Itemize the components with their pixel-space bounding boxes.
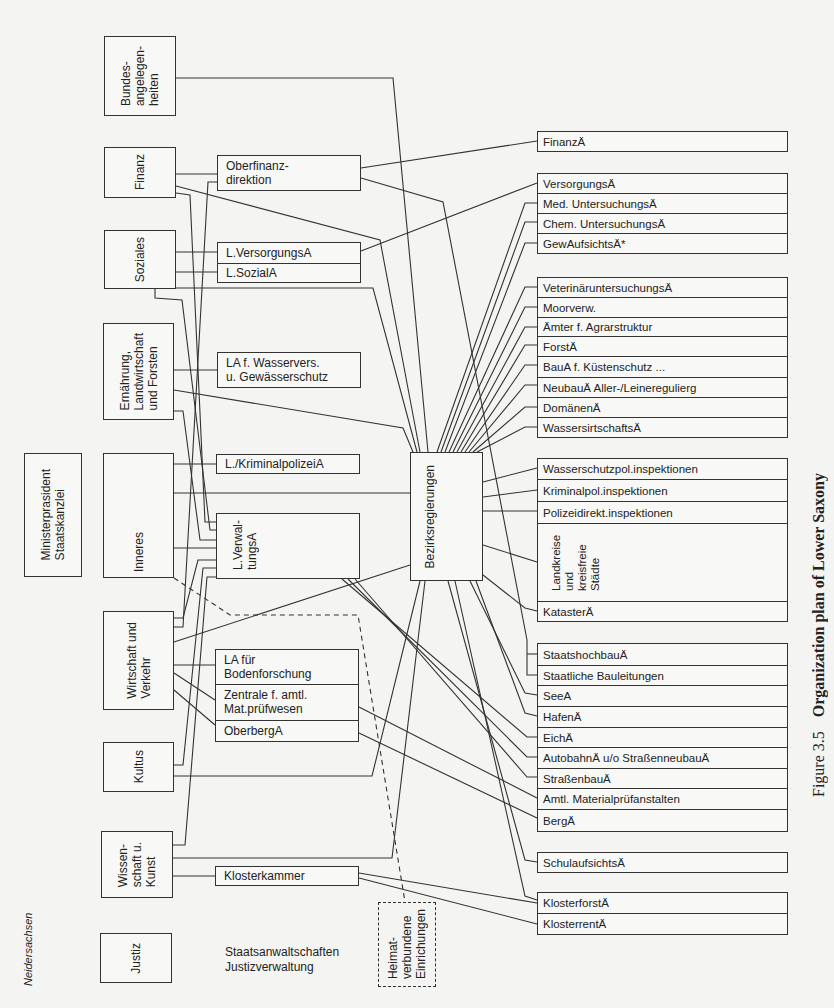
connection-line [174, 411, 216, 540]
agency-zentrale-matpruefwesen: Zentrale f. amtl. Mat.prüfwesen [215, 684, 359, 721]
local-office-box: DomänenÄ [537, 397, 788, 418]
agency-l-soziala: L.SozialA [217, 263, 361, 283]
connection-line [483, 468, 537, 482]
ministry-label: Kultus [132, 750, 146, 783]
local-office-box: NeubauÄ Aller-/Leineregulierg [537, 377, 788, 398]
local-office-box: KlosterrentÄ [537, 913, 788, 935]
connection-line [483, 490, 537, 497]
local-office-label: StraßenbauÄ [543, 773, 611, 785]
ministry-kultus: Kultus [103, 742, 174, 792]
local-office-label: KlosterrentÄ [543, 918, 606, 930]
local-office-label: Chem. UntersuchungsÄ [543, 218, 665, 230]
local-office-label: HafenÄ [543, 711, 581, 723]
bezirksregierungen: Bezirksregierungen [410, 452, 483, 581]
local-office-box: StraßenbauÄ [537, 768, 788, 789]
local-office-box: StaatshochbauÄ [537, 643, 788, 666]
ministry-label: Ministerprasident Staatskanzlei [39, 469, 67, 560]
local-office-label: Polizeidirekt.inspektionen [543, 507, 673, 519]
local-office-label: Staatliche Bauleitungen [543, 670, 664, 682]
local-office-label: Amtl. Materialprüfanstalten [543, 793, 680, 805]
connection-line [174, 568, 216, 765]
local-office-label: FinanzÄ [543, 136, 585, 148]
local-office-box: HafenÄ [537, 706, 788, 728]
local-office-box: WassersirtschaftsÄ [537, 417, 788, 438]
local-office-label: Med. UntersuchungsÄ [543, 198, 657, 210]
ministry-soziales: Soziales [104, 230, 176, 289]
ministerpraesident-staatskanzlei: Ministerprasident Staatskanzlei [24, 453, 82, 577]
connection-line [361, 183, 537, 251]
local-office-label: Kriminalpol.inspektionen [543, 485, 668, 497]
local-office-label: VersorgungsÄ [543, 178, 615, 190]
ministry-ernaehrung: Ernährung, Landwirtschaft und Forsten [103, 323, 174, 420]
ministry-justiz: Justiz [100, 933, 172, 983]
figure-title: Organization plan of Lower Saxony [810, 473, 827, 717]
local-office-box: Chem. UntersuchungsÄ [537, 213, 788, 234]
local-office-box: FinanzÄ [537, 131, 788, 152]
local-office-label: BergÄ [543, 815, 575, 827]
local-office-label: WassersirtschaftsÄ [543, 422, 641, 434]
local-office-box: Wasserschutzpol.inspektionen [537, 458, 788, 480]
agency-oberfinanzdirektion: Oberfinanz- direktion [217, 155, 361, 191]
connection-line [176, 186, 420, 452]
local-office-box: VeterinäruntersuchungsÄ [537, 277, 788, 298]
agency-la-bodenforschung: LA für Bodenforschung [215, 649, 359, 685]
bezirksregierungen-label: Bezirksregierungen [423, 465, 437, 568]
connection-line [174, 560, 216, 618]
ministry-label: Ernährung, Landwirtschaft und Forsten [118, 333, 160, 410]
agency-l-versorgungsa: L.VersorgungsA [217, 242, 361, 264]
ministry-label: Wissen- schaft u. Kunst [116, 842, 158, 887]
local-office-label: Ämter f. Agrarstruktur [543, 321, 652, 333]
connection-line [173, 577, 216, 845]
connection-line [359, 707, 537, 798]
state-label: Neidersachsen [22, 898, 34, 986]
agency-klosterkammer: Klosterkammer [215, 866, 359, 886]
local-office-box: KatasterÄ [537, 601, 788, 622]
local-office-label: StaatshochbauÄ [543, 649, 627, 661]
connection-line [361, 141, 537, 168]
connection-line [176, 193, 216, 522]
local-office-box: BergÄ [537, 809, 788, 832]
connection-line [174, 390, 413, 452]
local-office-box: SeeA [537, 685, 788, 707]
connection-line [361, 178, 537, 675]
local-office-label: EichÄ [543, 732, 573, 744]
organization-diagram: Bundes- angelegen- heiten Finanz Soziale… [0, 0, 834, 1008]
figure-caption: Figure 3.5Organization plan of Lower Sax… [810, 287, 828, 797]
ministry-wissenschaft: Wissen- schaft u. Kunst [101, 831, 173, 898]
agency-oberberga: OberbergA [215, 720, 359, 742]
agency-la-wasservers: LA f. Wasservers. u. Gewässerschutz [217, 352, 361, 388]
heimatverbundene-einrichungen: Heimat- verbundene Einrichungen [378, 902, 436, 987]
local-office-box: ForstÄ [537, 336, 788, 357]
local-office-box: KlosterforstÄ [537, 892, 788, 914]
local-office-label: AutobahnÄ u/o StraßenneubauÄ [543, 752, 709, 764]
local-office-label: ForstÄ [543, 341, 577, 353]
agency-l-kriminalpolizeia: L./KriminalpolizeiA [216, 454, 360, 474]
landkreise-label: Landkreise und kreisfreie Städte [550, 529, 602, 591]
justice-note: Staatsanwaltschaften Justizverwaltung [225, 945, 339, 975]
agency-label: L.Verwal- tungsA [231, 520, 259, 570]
local-office-box: VersorgungsÄ [537, 173, 788, 194]
connection-line [473, 407, 537, 452]
connection-line [355, 579, 537, 777]
ministry-finanz: Finanz [104, 147, 176, 198]
local-office-label: SeeA [543, 690, 571, 702]
local-office-box: Ämter f. Agrarstruktur [537, 317, 788, 337]
connection-line [476, 581, 537, 716]
connection-line [469, 385, 537, 452]
heimat-label: Heimat- verbundene Einrichungen [386, 909, 428, 979]
ministry-bundesangelegenheiten: Bundes- angelegen- heiten [104, 36, 176, 116]
local-office-label: BauA f. Küstenschutz ... [543, 361, 665, 373]
local-office-box: Med. UntersuchungsÄ [537, 193, 788, 214]
local-office-box: BauA f. Küstenschutz ... [537, 356, 788, 378]
agency-l-verwaltungsa: L.Verwal- tungsA [216, 513, 360, 579]
local-office-label: Moorverw. [543, 302, 596, 314]
local-office-label: VeterinäruntersuchungsÄ [543, 282, 672, 294]
local-office-box: Staatliche Bauleitungen [537, 665, 788, 686]
connection-line [483, 545, 537, 562]
local-office-box: SchulaufsichtsÄ [537, 852, 788, 873]
connection-line [359, 873, 537, 903]
local-office-box: Polizeidirekt.inspektionen [537, 501, 788, 524]
local-office-box: GewAufsichtsÄ* [537, 233, 788, 254]
ministry-label: Finanz [133, 154, 147, 190]
local-office-box: Kriminalpol.inspektionen [537, 479, 788, 502]
